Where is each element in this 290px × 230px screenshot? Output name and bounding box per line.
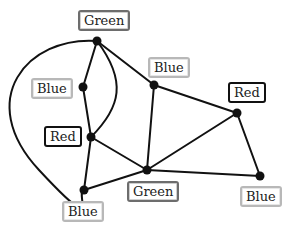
edge-n6-n8 (147, 170, 260, 176)
node-n5 (150, 81, 159, 90)
node-label-n3: Red (44, 126, 82, 147)
node-n3 (87, 133, 96, 142)
edge-n1-n4 (10, 41, 97, 208)
edge-n5-n6 (147, 85, 154, 170)
node-label-n7: Red (228, 82, 266, 103)
node-n7 (233, 109, 242, 118)
edge-n6-n7 (147, 113, 237, 170)
edge-n1-n2 (83, 41, 97, 87)
edge-n3-n6 (91, 137, 147, 170)
node-label-n8: Blue (240, 186, 282, 207)
edge-n5-n7 (154, 85, 237, 113)
node-label-n2: Blue (31, 78, 73, 99)
node-label-n1: Green (78, 10, 130, 31)
node-label-n5: Blue (148, 57, 190, 78)
edge-n2-n3 (83, 87, 91, 137)
node-n8 (256, 172, 265, 181)
node-n6 (143, 166, 152, 175)
edge-n3-n4 (84, 137, 91, 190)
node-n4 (80, 186, 89, 195)
node-n2 (79, 83, 88, 92)
node-label-n6: Green (127, 181, 179, 202)
edge-n1-n3 (91, 41, 117, 137)
edge-n1-n5 (97, 41, 154, 85)
node-n1 (93, 37, 102, 46)
node-label-n4: Blue (62, 201, 104, 222)
edge-n7-n8 (237, 113, 260, 176)
